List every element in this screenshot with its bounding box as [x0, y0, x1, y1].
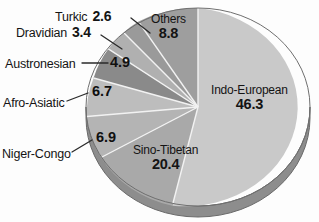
label-afro-asiatic-name: Afro-Asiatic [3, 96, 65, 110]
label-austronesian-name-wrap: Austronesian [5, 55, 76, 72]
label-austronesian-name: Austronesian [5, 57, 76, 71]
label-dravidian: Dravidian 3.4 [16, 25, 91, 40]
pie-chart-figure: Turkic 2.6 Dravidian 3.4 Austronesian 4.… [0, 0, 319, 222]
label-others-name: Others [151, 13, 186, 26]
label-sino-tibetan-value: 20.4 [152, 157, 179, 172]
label-sino-tibetan: Sino-Tibetan 20.4 [133, 144, 198, 172]
label-indo-european-value: 46.3 [236, 97, 263, 112]
label-afro-asiatic-name-wrap: Afro-Asiatic [3, 94, 65, 111]
label-turkic-name: Turkic [55, 11, 87, 24]
leader-line-niger-congo [72, 140, 92, 152]
label-niger-congo-value: 6.9 [96, 130, 116, 145]
label-others: Others 8.8 [151, 13, 186, 41]
label-niger-congo-name: Niger-Congo [2, 147, 71, 161]
label-indo-european-name: Indo-European [211, 84, 288, 97]
label-others-value: 8.8 [159, 26, 179, 41]
label-sino-tibetan-name: Sino-Tibetan [133, 144, 198, 157]
label-turkic: Turkic 2.6 [55, 9, 111, 24]
label-austronesian-value: 4.9 [110, 55, 130, 70]
leader-line-afro-asiatic [67, 93, 88, 101]
label-indo-european: Indo-European 46.3 [211, 84, 288, 112]
label-turkic-value: 2.6 [92, 9, 111, 24]
label-dravidian-value: 3.4 [72, 25, 91, 40]
label-niger-congo-name-wrap: Niger-Congo [2, 145, 71, 162]
label-afro-asiatic-value: 6.7 [92, 84, 112, 99]
label-dravidian-name: Dravidian [16, 27, 67, 40]
